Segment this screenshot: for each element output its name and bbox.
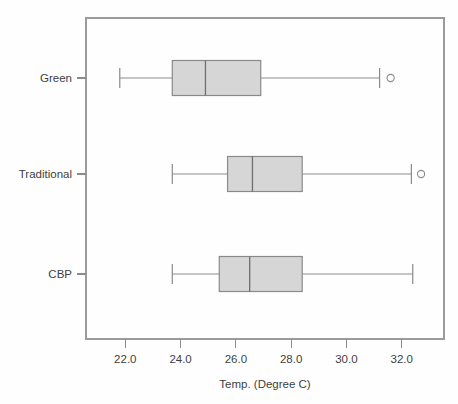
outlier-traditional-1 xyxy=(417,170,424,177)
x-tick-label-5: 32.0 xyxy=(391,353,413,365)
box-group-cbp xyxy=(172,257,412,292)
y-tick-label-cbp: CBP xyxy=(48,268,72,280)
box-group-green xyxy=(120,61,394,96)
box-green xyxy=(172,61,260,96)
y-tick-label-green: Green xyxy=(40,72,72,84)
x-tick-label-1: 24.0 xyxy=(169,353,191,365)
y-axis: Green Traditional CBP xyxy=(19,72,86,280)
x-tick-label-4: 30.0 xyxy=(335,353,357,365)
boxplot-canvas: Green Traditional CBP 22.0 24.0 26.0 28.… xyxy=(0,0,458,404)
box-cbp xyxy=(219,257,302,292)
outlier-green-1 xyxy=(387,74,394,81)
x-tick-label-3: 28.0 xyxy=(280,353,302,365)
x-axis: 22.0 24.0 26.0 28.0 30.0 32.0 Temp. (Deg… xyxy=(114,339,413,390)
box-group-traditional xyxy=(172,157,424,192)
box-traditional xyxy=(228,157,303,192)
x-axis-title: Temp. (Degree C) xyxy=(219,378,311,390)
x-tick-label-2: 26.0 xyxy=(225,353,247,365)
x-tick-label-0: 22.0 xyxy=(114,353,136,365)
boxplot-figure: Green Traditional CBP 22.0 24.0 26.0 28.… xyxy=(0,0,458,404)
y-tick-label-traditional: Traditional xyxy=(19,168,72,180)
